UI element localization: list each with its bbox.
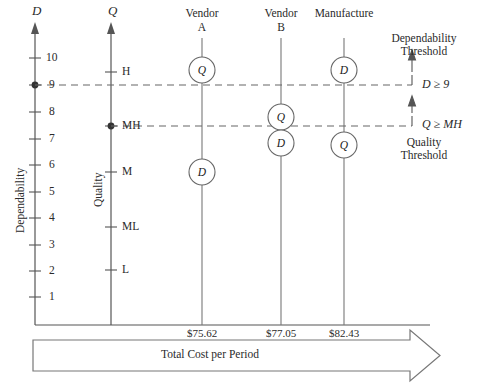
column-header-vendor-b-line2: B (251, 21, 311, 34)
d-tick-5: 5 (49, 185, 55, 198)
cost-label-vendor-a: $75.62 (172, 327, 232, 339)
cost-label-vendor-b: $77.05 (251, 327, 311, 339)
d-tick-8: 8 (49, 105, 55, 118)
column-header-manufacture-line1: Manufacture (299, 7, 389, 20)
d-tick-9: 9 (49, 78, 55, 91)
node-label-vendor-b-d: D (268, 130, 294, 156)
d-tick-3: 3 (49, 238, 55, 251)
d-tick-4: 4 (49, 211, 55, 224)
dashed-threshold-lines (35, 85, 412, 126)
q-tick-l: L (122, 263, 129, 276)
quality-threshold-expression: Q ≥ MH (422, 118, 462, 131)
d-tick-2: 2 (49, 264, 55, 277)
d-axis-line (31, 22, 39, 325)
dependability-threshold-title-line1: Dependability (370, 32, 478, 46)
node-label-vendor-a-q: Q (189, 57, 215, 83)
q-tick-h: H (122, 65, 130, 78)
d-tick-6: 6 (49, 158, 55, 171)
cost-label-manufacture: $82.43 (314, 327, 374, 339)
node-label-manufacture-q: Q (331, 132, 357, 158)
node-label-vendor-b-q: Q (268, 104, 294, 130)
q-tick-mh: MH (122, 119, 141, 132)
d-axis-title: Dependability (14, 168, 27, 233)
d-tick-7: 7 (49, 132, 55, 145)
figure-root: D Dependability 10 9 8 7 6 5 4 3 2 1 Q Q… (0, 0, 481, 384)
q-tick-ml: ML (122, 220, 139, 233)
quality-threshold-title-line2: Threshold (370, 149, 478, 163)
column-header-vendor-a-line1: Vendor (172, 7, 232, 20)
dependability-threshold-expression: D ≥ 9 (422, 78, 449, 91)
dependability-threshold-title-line2: Threshold (370, 45, 478, 59)
node-label-vendor-a-d: D (189, 159, 215, 185)
q-axis-name: Q (108, 4, 117, 19)
q-axis-line (107, 22, 115, 325)
q-tick-m: M (122, 165, 132, 178)
column-header-vendor-a-line2: A (172, 21, 232, 34)
d-tick-1: 1 (49, 290, 55, 303)
column-lines (202, 38, 344, 325)
x-axis-title: Total Cost per Period (0, 348, 420, 361)
node-label-manufacture-d: D (331, 57, 357, 83)
quality-threshold-title-line1: Quality (370, 136, 478, 150)
q-axis-title: Quality (92, 173, 105, 208)
d-axis-name: D (32, 4, 41, 19)
threshold-arrow-group (409, 50, 416, 126)
d-tick-10: 10 (46, 51, 58, 64)
